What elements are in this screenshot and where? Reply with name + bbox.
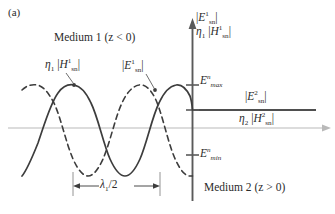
curve-h1-dashed	[22, 85, 193, 176]
medium2-e-label: |E2sn|	[245, 90, 267, 102]
medium2-h-label: η2 |H2sn|	[239, 112, 274, 124]
medium2-caption: Medium 2 (z > 0)	[204, 181, 285, 193]
e-max-label: Enmax	[200, 74, 222, 86]
dimension-arrow-left-icon	[73, 183, 80, 189]
half-wavelength-label: λ1/2	[100, 178, 118, 190]
dimension-arrow-right-icon	[153, 183, 160, 189]
vertical-axis-title-e: |E1sn|	[196, 11, 218, 23]
curve-e1-solid	[22, 85, 193, 176]
vertical-axis-title: |E1sn| η1 |H1sn|	[196, 11, 231, 37]
dashed-curve-label: η1 |H1sn|	[45, 58, 80, 70]
z-axis-arrow-icon	[322, 125, 331, 132]
leader-e1	[146, 74, 157, 92]
figure-standing-wave: (a) Medium 1 (z < 0) Medium 2 (z > 0) |E…	[0, 0, 335, 214]
solid-curve-label: |E1sn|	[122, 59, 144, 71]
medium1-caption: Medium 1 (z < 0)	[54, 31, 135, 43]
panel-identifier: (a)	[8, 7, 20, 19]
z-axis	[8, 125, 331, 132]
e-min-label: Enmin	[200, 147, 221, 159]
vertical-axis-title-h: η1 |H1sn|	[196, 25, 231, 37]
